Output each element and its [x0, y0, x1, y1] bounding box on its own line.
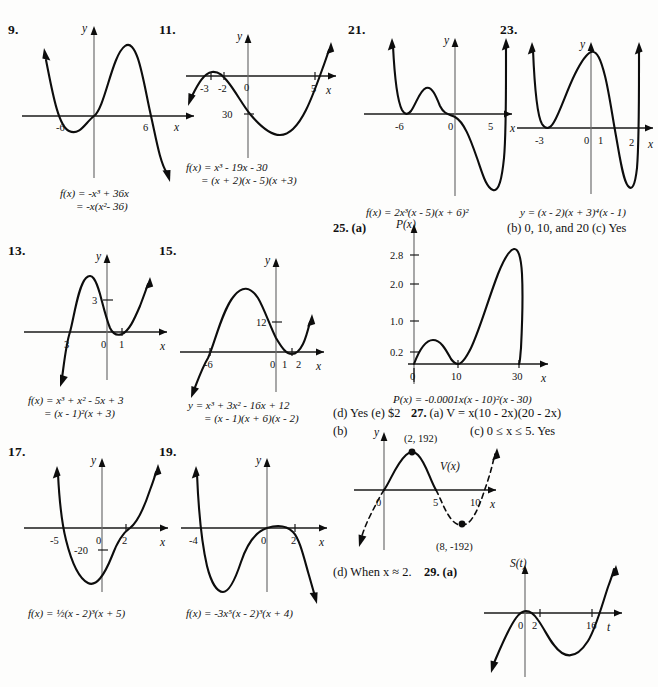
problem-27-header: 27. (a) V = x(10 - 2x)(20 - 2x): [411, 404, 561, 423]
curve-arrow-11-left: [188, 93, 196, 106]
graph-15: -6 0 1 2 12 x y: [172, 240, 352, 400]
y-axis-label-23: y: [579, 38, 586, 51]
y-axis-label-11: y: [236, 30, 243, 43]
xtick-label-15-1: 0: [270, 359, 275, 370]
x-axis-label-19: x: [318, 536, 325, 548]
curve-arrow-21-right: [502, 38, 510, 50]
y-axis-label-21: y: [443, 34, 450, 47]
xtick-label-17-2: 2: [122, 535, 127, 546]
point-min-27: [459, 521, 466, 528]
y-axis-arrow-23: [588, 42, 595, 51]
xtick-label-21-2: 5: [488, 121, 493, 132]
x-axis-arrow-13: [159, 329, 167, 336]
curve-arrow-9-left: [42, 48, 50, 61]
xtick-label-13-2: 1: [119, 339, 124, 350]
xtick-label-9-0: -6: [56, 122, 65, 133]
xtick-label-27-2: 10: [470, 497, 481, 508]
xtick-label-27-1: 5: [433, 497, 438, 508]
y-axis-arrow-15: [273, 258, 280, 267]
caption-9-line2: = -x(x²- 36): [76, 199, 128, 214]
curve-arrow-15-bottom: [191, 386, 199, 398]
problem-number-9: 9.: [8, 22, 19, 38]
curve-arrow-29-left: [491, 661, 499, 673]
xtick-label-23-1: 0: [584, 135, 589, 146]
xtick-label-21-0: -6: [395, 121, 404, 132]
x-axis-arrow-11: [328, 73, 336, 80]
xtick-label-23-3: 2: [629, 137, 634, 148]
curve-arrow-13-bottom: [60, 375, 68, 387]
xtick-label-23-0: -3: [535, 135, 544, 146]
curve-27-solid: [384, 452, 436, 490]
curve-arrow-21-left: [388, 38, 396, 50]
xtick-label-17-1: 0: [96, 535, 101, 546]
xtick-label-13-1: 0: [101, 339, 106, 350]
problem-25-header: 25. (a): [333, 219, 366, 238]
x-axis-label-27: x: [489, 498, 496, 510]
caption-15-line2: = (x - 1)(x + 6)(x - 2): [204, 411, 299, 426]
xtick-label-29-1: 2: [532, 620, 537, 631]
xtick-label-11-2: 0: [244, 82, 249, 93]
x-axis-arrow-27: [488, 487, 496, 494]
caption-19-line1: f(x) = -3x⁵(x - 2)³(x + 4): [186, 606, 293, 621]
xtick-label-15-2: 1: [282, 359, 287, 370]
xtick-label-19-1: 0: [261, 535, 266, 546]
x-axis-arrow-25: [540, 361, 548, 368]
y-axis-label-27: y: [373, 426, 380, 439]
xtick-label-29-2: 16: [586, 620, 597, 631]
curve-arrow-11-right: [327, 42, 335, 54]
x-axis-label-23: x: [647, 138, 654, 150]
curve-11: [192, 50, 329, 135]
xtick-label-11-1: -2: [218, 83, 227, 94]
point-max-27: [409, 449, 416, 456]
problem-29-part-a-label: (a): [443, 565, 457, 579]
xtick-label-11-3: 5: [311, 83, 316, 94]
curve-25: [414, 249, 522, 364]
ytick-label-25-1: 2.0: [390, 279, 403, 290]
problem-number-19: 19.: [159, 444, 176, 460]
ytick-label-25-3: 0.2: [390, 347, 403, 358]
xtick-label-9-1: 6: [143, 122, 148, 133]
y-axis-arrow-21: [452, 38, 459, 47]
ytick-label-17-0: -20: [74, 545, 88, 556]
problem-25-part-a-label: (a): [352, 221, 366, 235]
graph-11: -3 -2 0 5 30 x y: [178, 18, 358, 178]
curve-label-27: V(x): [440, 460, 460, 473]
problem-25-part-d-e: (d) Yes (e) $2: [333, 404, 400, 423]
y-axis-label-29: S(t): [510, 557, 527, 570]
xtick-label-25-0: 0: [410, 371, 415, 382]
xtick-label-25-2: 30: [512, 371, 523, 382]
y-axis-label-19: y: [255, 454, 262, 467]
graph-25: 2.8 2.0 1.0 0.2 0 10 30 x P(x): [388, 216, 578, 391]
ytick-label-15-0: 12: [256, 317, 267, 328]
problem-number-29: 29.: [424, 565, 440, 579]
y-axis-arrow-11: [245, 34, 252, 43]
problem-27-part-a: (a) V = x(10 - 2x)(20 - 2x): [430, 406, 561, 420]
xtick-label-17-0: -5: [50, 535, 59, 546]
curve-arrow-23-right: [635, 42, 643, 54]
caption-17-text: f(x) = ½(x - 2)³(x + 5): [28, 607, 125, 619]
caption-11-line2: = (x + 2)(x - 5)(x +3): [201, 173, 297, 188]
xtick-label-15-3: 2: [296, 359, 301, 370]
x-axis-arrow-29: [614, 610, 622, 617]
y-axis-arrow-27: [381, 432, 388, 441]
y-axis-label-25: P(x): [395, 218, 416, 231]
curve-29: [494, 569, 614, 663]
point-min-label-27: (8, -192): [436, 541, 473, 553]
x-axis-label-15: x: [315, 360, 322, 372]
curve-arrow-13-right: [145, 277, 153, 289]
curve-9: [46, 45, 167, 173]
ytick-label-11-0: 30: [222, 109, 233, 120]
curve-arrow-17-right: [154, 464, 162, 476]
problem-number-11: 11.: [159, 22, 176, 38]
problem-number-27: 27.: [411, 406, 427, 420]
x-axis-label-17: x: [159, 536, 166, 548]
caption-13-line2: = (x - 1)²(x + 3): [44, 406, 115, 421]
x-axis-arrow-17: [160, 525, 168, 532]
x-axis-arrow-19: [319, 525, 327, 532]
answer-key-page: 9. -6 6 x y f(x) = -x³ + 36x = -x(x²- 36…: [0, 0, 658, 687]
y-axis-arrow-13: [104, 254, 111, 263]
xtick-label-23-2: 1: [598, 135, 603, 146]
graph-21: -6 0 5 x y: [360, 18, 530, 208]
curve-13: [62, 276, 148, 378]
caption-17-line1: f(x) = ½(x - 2)³(x + 5): [28, 606, 125, 621]
